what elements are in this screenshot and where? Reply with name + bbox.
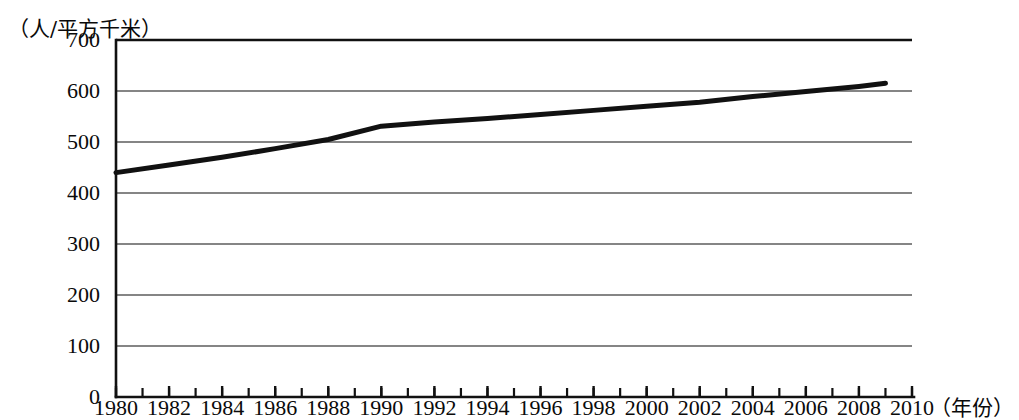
y-tick-label: 500 — [26, 131, 100, 153]
y-tick-label: 300 — [26, 233, 100, 255]
plot-area — [0, 0, 1019, 420]
y-tick-label: 400 — [26, 182, 100, 204]
population-density-line-chart: （人/平方千米） 0100200300400500600700 19801982… — [0, 0, 1019, 420]
y-tick-label: 700 — [26, 29, 100, 51]
y-tick-label: 600 — [26, 80, 100, 102]
y-tick-label: 200 — [26, 284, 100, 306]
data-series-line — [116, 83, 885, 172]
x-axis-unit-label: （年份） — [930, 396, 1014, 420]
y-tick-label: 100 — [26, 335, 100, 357]
gridline-group — [116, 40, 912, 346]
